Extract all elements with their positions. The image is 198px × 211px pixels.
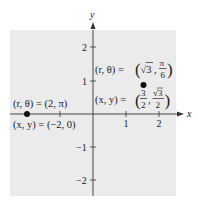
y-tick-1: 1	[82, 76, 87, 87]
y-axis-label: y	[89, 9, 95, 20]
x-tick-2: 2	[157, 118, 162, 129]
rect-x-num: 3	[141, 88, 146, 98]
paren-right: )	[165, 91, 171, 110]
polar-theta-den: 6	[161, 70, 166, 80]
svg-text:,: ,	[148, 94, 151, 105]
paren-right: )	[167, 60, 173, 79]
point-a-dot	[24, 111, 30, 117]
svg-text:,: ,	[154, 64, 157, 75]
polar-r: √3	[141, 64, 152, 75]
x-axis-label: x	[186, 108, 192, 119]
rect-y-num: √3	[153, 88, 163, 98]
y-axis-arrow-icon	[91, 22, 96, 29]
y-tick-neg1: −1	[76, 142, 87, 153]
y-tick-neg2: −2	[76, 175, 87, 186]
svg-text:(r, θ) =: (r, θ) =	[95, 64, 124, 76]
svg-text:(x, y) =: (x, y) =	[95, 94, 126, 106]
y-tick-2: 2	[82, 42, 87, 53]
point-a-polar-label: (r, θ) = (2, π)	[13, 98, 68, 110]
x-axis-arrow-icon	[177, 112, 184, 117]
polar-theta-num: π	[160, 58, 165, 68]
rect-x-den: 2	[141, 100, 146, 110]
x-tick-1: 1	[124, 118, 129, 129]
polar-rectangular-diagram: x y 1 2 2 1 −1 −2	[0, 0, 198, 211]
rect-y-den: 2	[156, 100, 161, 110]
point-a-rect-label: (x, y) = (−2, 0)	[13, 119, 76, 131]
